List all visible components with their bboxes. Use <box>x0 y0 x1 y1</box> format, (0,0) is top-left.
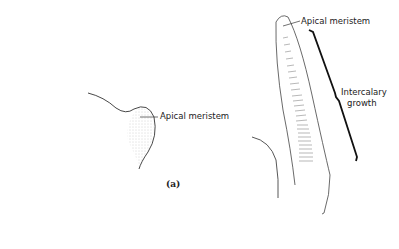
panel-b-drawing <box>252 16 357 214</box>
intercalary-label-line1: Intercalary <box>341 88 387 97</box>
panel-a-caption: (a) <box>166 179 180 189</box>
panel-a-drawing <box>88 93 158 169</box>
panel-b-apical-meristem-label: Apical meristem <box>301 17 370 26</box>
panel-a-apical-meristem-label: Apical meristem <box>160 112 229 121</box>
figure-canvas <box>0 0 399 249</box>
intercalary-label-line2: growth <box>347 99 377 108</box>
